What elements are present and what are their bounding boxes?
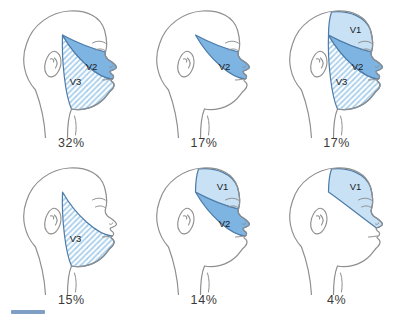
percent-label-1: 32% (48, 136, 85, 150)
region-label-v2: V2 (219, 218, 231, 229)
ear-outline (178, 51, 194, 77)
region-label-v1: V1 (349, 181, 361, 192)
head-illustration-3: V1V2V3 (267, 2, 397, 138)
region-v2 (195, 35, 249, 79)
region-label-v2: V2 (351, 61, 363, 72)
percent-label-5: 14% (181, 293, 218, 307)
head-figure-2: V2 17% (133, 0, 266, 157)
region-v1 (328, 169, 382, 228)
region-label-v1: V1 (349, 24, 361, 35)
head-figure-4: V3 15% (0, 157, 133, 314)
region-label-v2: V2 (86, 61, 98, 72)
region-label-v1: V1 (217, 181, 229, 192)
head-illustration-4: V3 (1, 159, 131, 295)
region-label-v2: V2 (219, 61, 231, 72)
region-label-v3: V3 (70, 233, 82, 244)
head-illustration-6: V1 (267, 159, 397, 295)
head-svg: V2 (134, 2, 264, 138)
region-label-v3: V3 (70, 76, 82, 87)
head-illustration-1: V2V3 (1, 2, 131, 138)
head-figure-1: V2V3 32% (0, 0, 133, 157)
percent-label-2: 17% (181, 136, 218, 150)
head-illustration-2: V2 (134, 2, 264, 138)
percent-label-3: 17% (313, 136, 350, 150)
diagram-grid: V2V3 32% V2 17% V1V2V3 17% V3 15% V1V2 1… (0, 0, 398, 314)
head-svg: V2V3 (1, 2, 131, 138)
percent-label-6: 4% (317, 293, 346, 307)
head-svg: V1 (267, 159, 397, 295)
head-figure-5: V1V2 14% (133, 157, 266, 314)
ear-outline (45, 208, 61, 234)
ear-outline (45, 51, 61, 77)
head-svg: V1V2V3 (267, 2, 397, 138)
head-svg: V1V2 (134, 159, 264, 295)
head-svg: V3 (1, 159, 131, 295)
head-figure-3: V1V2V3 17% (265, 0, 398, 157)
region-label-v3: V3 (335, 76, 347, 87)
head-figure-6: V1 4% (265, 157, 398, 314)
cropped-box-artifact (11, 310, 45, 314)
head-illustration-5: V1V2 (134, 159, 264, 295)
ear-outline (310, 208, 326, 234)
percent-label-4: 15% (48, 293, 85, 307)
ear-outline (310, 51, 326, 77)
ear-outline (178, 208, 194, 234)
